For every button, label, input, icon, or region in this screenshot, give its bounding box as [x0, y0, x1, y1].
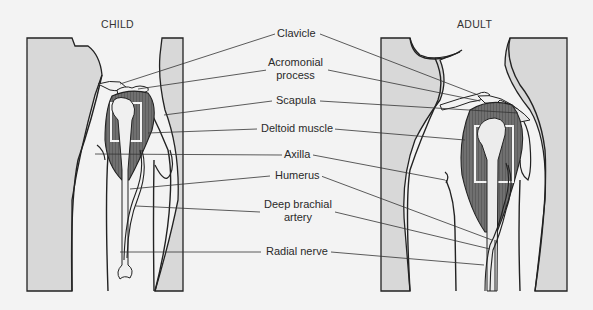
child-panel	[27, 38, 183, 291]
label-deltoid-muscle: Deltoid muscle	[259, 122, 335, 135]
label-radial-nerve: Radial nerve	[264, 245, 330, 258]
label-humerus: Humerus	[273, 169, 322, 182]
child-panel-frame-right	[155, 38, 183, 291]
label-clavicle: Clavicle	[275, 27, 318, 40]
label-acromonial-line2: process	[268, 69, 323, 82]
label-deep-brachial-line1: Deep brachial	[264, 198, 332, 211]
label-acromonial-process: Acromonial process	[266, 56, 325, 82]
anatomy-figure: CHILD ADULT Clavicle Acromonial process …	[0, 0, 593, 310]
label-axilla: Axilla	[282, 148, 312, 161]
label-acromonial-line1: Acromonial	[268, 56, 323, 69]
child-panel-title: CHILD	[101, 18, 134, 30]
label-deep-brachial-line2: artery	[264, 211, 332, 224]
label-deep-brachial-artery: Deep brachial artery	[262, 198, 334, 224]
child-panel-frame	[27, 38, 102, 291]
label-scapula: Scapula	[274, 94, 318, 107]
adult-panel-title: ADULT	[457, 18, 492, 30]
adult-panel-frame	[381, 38, 460, 291]
adult-panel	[381, 38, 567, 291]
